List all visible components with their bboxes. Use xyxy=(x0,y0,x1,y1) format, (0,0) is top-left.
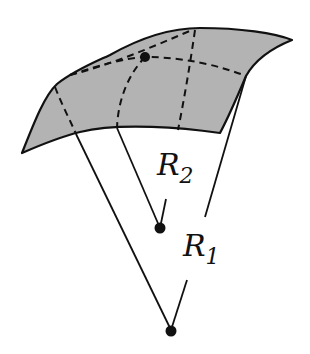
label-r2-main: R xyxy=(156,147,180,182)
center-of-curvature-r2 xyxy=(155,223,166,234)
label-r2-subscript: 2 xyxy=(179,163,194,188)
radius-line-r2-left xyxy=(117,128,160,228)
curvature-diagram: R2 R1 xyxy=(0,0,310,354)
surface-point xyxy=(140,52,150,62)
label-r1-main: R xyxy=(182,228,206,263)
curved-surface xyxy=(22,28,292,153)
label-r1-subscript: 1 xyxy=(206,244,220,269)
radius-line-r1-right-lower xyxy=(171,280,187,330)
center-of-curvature-r1 xyxy=(166,326,177,337)
label-r1: R1 xyxy=(182,228,220,269)
label-r2: R2 xyxy=(156,147,194,188)
